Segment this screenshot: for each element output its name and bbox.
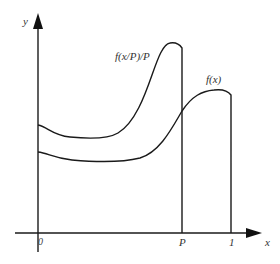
x-axis-label: x — [264, 236, 270, 248]
origin-label: 0 — [38, 236, 43, 247]
y-axis: y — [22, 13, 43, 252]
x-tick-label-p: P — [178, 236, 186, 248]
x-tick-label-1: 1 — [229, 236, 235, 248]
curve-scaled-function: f(x/P)/P — [38, 43, 182, 233]
y-axis-label: y — [22, 15, 28, 27]
function-scaling-diagram: y x 0 P 1 f(x/P)/P f(x) — [0, 0, 280, 264]
x-axis: x 0 P 1 — [15, 228, 270, 248]
curve-original-function: f(x) — [38, 73, 231, 233]
curve-label-original-function: f(x) — [206, 73, 222, 86]
x-axis-arrow-icon — [246, 228, 262, 238]
curve-label-scaled-function: f(x/P)/P — [115, 50, 150, 63]
y-axis-arrow-icon — [33, 13, 43, 29]
